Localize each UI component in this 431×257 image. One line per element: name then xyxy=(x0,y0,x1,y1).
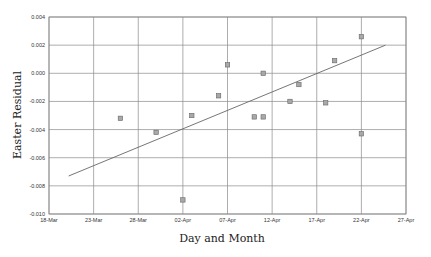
y-axis-title: Easter Residual xyxy=(11,70,24,159)
x-tick-label: 07-Apr xyxy=(219,217,236,223)
y-tick-label: -0.008 xyxy=(29,183,45,189)
data-point-marker xyxy=(323,101,327,105)
data-points xyxy=(118,35,363,203)
x-axis-ticks: 18-Mar23-Mar28-Mar02-Apr07-Apr12-Apr17-A… xyxy=(40,217,414,223)
data-point-marker xyxy=(359,132,363,136)
x-tick-label: 22-Apr xyxy=(353,217,370,223)
data-point-marker xyxy=(359,35,363,39)
x-tick-label: 27-Apr xyxy=(398,217,415,223)
data-point-marker xyxy=(332,58,336,62)
y-tick-label: 0.000 xyxy=(31,70,45,76)
y-tick-label: -0.006 xyxy=(29,155,45,161)
data-point-marker xyxy=(288,99,292,103)
grid-lines xyxy=(49,17,406,214)
y-tick-label: 0.004 xyxy=(31,14,45,20)
x-tick-label: 17-Apr xyxy=(308,217,325,223)
data-point-marker xyxy=(261,71,265,75)
data-point-marker xyxy=(216,94,220,98)
easter-residual-chart: 0.0040.0020.000-0.002-0.004-0.006-0.008-… xyxy=(0,0,431,257)
x-tick-label: 23-Mar xyxy=(85,217,103,223)
x-tick-label: 12-Apr xyxy=(264,217,281,223)
x-tick-label: 18-Mar xyxy=(40,217,58,223)
data-point-marker xyxy=(261,115,265,119)
x-tick-label: 28-Mar xyxy=(130,217,148,223)
data-point-marker xyxy=(297,82,301,86)
data-point-marker xyxy=(181,198,185,202)
y-tick-label: -0.004 xyxy=(29,127,45,133)
data-point-marker xyxy=(190,113,194,117)
data-point-marker xyxy=(118,116,122,120)
data-point-marker xyxy=(154,130,158,134)
x-axis-title: Day and Month xyxy=(179,232,265,245)
x-tick-label: 02-Apr xyxy=(175,217,192,223)
y-axis-ticks: 0.0040.0020.000-0.002-0.004-0.006-0.008-… xyxy=(29,14,45,217)
y-tick-label: 0.002 xyxy=(31,42,45,48)
y-tick-label: -0.002 xyxy=(29,98,45,104)
data-point-marker xyxy=(225,63,229,67)
data-point-marker xyxy=(252,115,256,119)
